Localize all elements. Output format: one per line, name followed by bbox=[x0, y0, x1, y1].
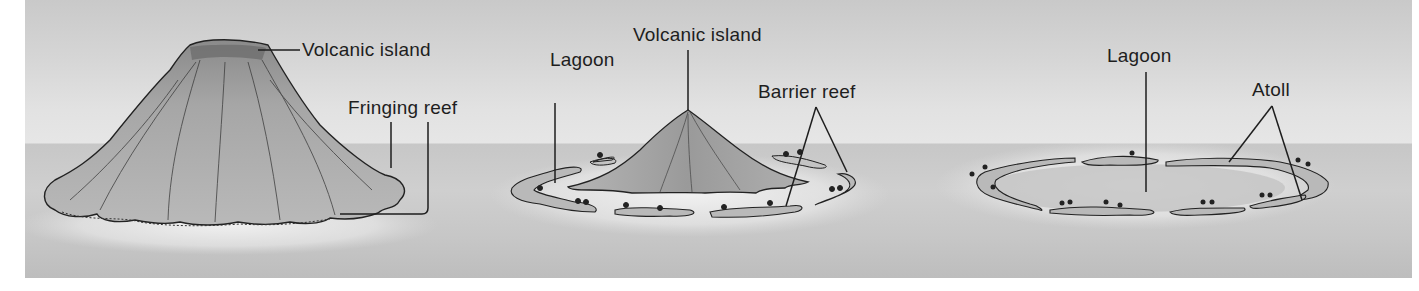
barrier-reef-ring-bottom bbox=[615, 208, 694, 217]
label-barrier-reef: Barrier reef bbox=[758, 82, 855, 102]
label-volcanic-island-2: Volcanic island bbox=[633, 25, 762, 45]
label-atoll: Atoll bbox=[1252, 80, 1290, 100]
label-lagoon-1: Lagoon bbox=[550, 50, 615, 70]
diagram-panel: Volcanic island Fringing reef Lagoon Vol… bbox=[25, 0, 1412, 278]
stage-atoll bbox=[935, 140, 1335, 230]
stage-fringing-reef bbox=[25, 40, 438, 255]
stage-barrier-reef bbox=[490, 110, 890, 237]
label-lagoon-2: Lagoon bbox=[1107, 46, 1172, 66]
label-volcanic-island-1: Volcanic island bbox=[302, 40, 431, 60]
label-fringing-reef: Fringing reef bbox=[348, 98, 457, 118]
